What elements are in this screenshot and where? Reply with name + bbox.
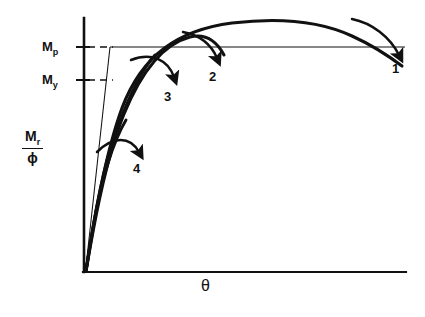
axes-group xyxy=(83,18,406,272)
curve-label-2: 2 xyxy=(209,70,216,83)
y-axis-label: Mr ϕ xyxy=(22,128,43,166)
elastic-plastic-reference-curve xyxy=(86,47,406,271)
curve-label-1: 1 xyxy=(392,62,399,75)
curve-3 xyxy=(86,55,155,271)
x-axis-label: θ xyxy=(201,277,210,295)
y-axis-label-numerator: Mr xyxy=(22,128,43,149)
tick-label-my: My xyxy=(42,73,58,90)
y-axis-label-numerator-sub: r xyxy=(37,137,41,147)
curve-2 xyxy=(86,36,224,271)
tick-label-my-main: M xyxy=(42,72,53,87)
tick-label-mp: Mp xyxy=(42,40,58,57)
annotation-arrows xyxy=(97,19,399,152)
arrow-to-curve-4 xyxy=(97,140,139,152)
curve-4 xyxy=(86,120,126,271)
tick-label-mp-main: M xyxy=(42,39,53,54)
y-axis-label-numerator-main: M xyxy=(25,128,37,144)
tick-label-my-sub: y xyxy=(53,80,58,90)
plot-canvas xyxy=(0,0,425,317)
moment-rotation-figure: Mp My Mr ϕ θ 1 2 3 4 xyxy=(0,0,425,317)
curve-label-4: 4 xyxy=(133,162,140,175)
curve-label-3: 3 xyxy=(164,90,171,103)
y-axis-label-denominator: ϕ xyxy=(22,149,43,166)
tick-label-mp-sub: p xyxy=(53,47,59,57)
